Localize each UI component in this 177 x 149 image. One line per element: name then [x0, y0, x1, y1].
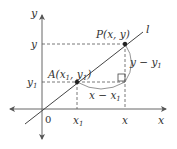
point-a: [75, 80, 79, 84]
tick-x: x: [122, 114, 128, 126]
right-angle-marker: [118, 74, 125, 81]
rise-label: y − y1: [129, 56, 162, 70]
tick-x1: x1: [73, 114, 83, 128]
tick-y: y: [30, 38, 38, 50]
run-brace: [77, 82, 125, 89]
line-label: l: [146, 23, 150, 36]
coordinate-diagram: y x 0 l P(x, y) A(x1, y1) y y1 x1 x y − …: [0, 0, 177, 149]
origin-label: 0: [45, 114, 51, 125]
tick-y1: y1: [26, 76, 37, 90]
y-axis-label: y: [30, 7, 38, 20]
x-axis-label: x: [158, 114, 165, 127]
point-a-label: A(x1, y1): [47, 68, 91, 82]
point-p-label: P(x, y): [95, 28, 130, 40]
run-label: x − x1: [89, 89, 121, 103]
point-p: [123, 42, 127, 46]
